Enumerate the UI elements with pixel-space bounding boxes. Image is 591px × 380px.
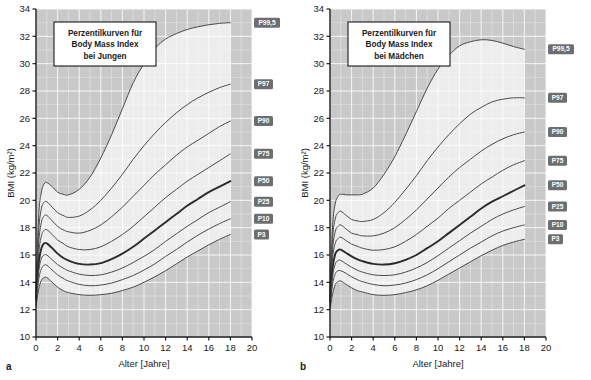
y-tick-label: 34 — [313, 3, 324, 14]
y-tick-label: 24 — [19, 140, 30, 151]
x-tick-label: 4 — [371, 342, 376, 353]
y-tick-label: 12 — [313, 304, 324, 315]
svg-text:P99,5: P99,5 — [258, 19, 276, 27]
y-tick-label: 18 — [19, 222, 30, 233]
svg-text:P10: P10 — [552, 221, 564, 228]
svg-text:P25: P25 — [552, 203, 564, 210]
y-tick-label: 16 — [19, 249, 30, 260]
chart-panel-boys: 1012141618202224262830323402468101214161… — [0, 0, 297, 380]
svg-text:P97: P97 — [552, 94, 564, 101]
svg-text:P75: P75 — [258, 150, 270, 157]
percentile-label-P3: P3 — [254, 230, 269, 240]
y-tick-label: 30 — [19, 58, 30, 69]
y-tick-label: 14 — [313, 277, 324, 288]
svg-text:P3: P3 — [257, 231, 265, 238]
chart-title-line: bei Jungen — [83, 52, 126, 61]
y-tick-label: 16 — [313, 249, 324, 260]
x-tick-label: 8 — [120, 342, 125, 353]
x-tick-label: 2 — [55, 342, 60, 353]
x-tick-label: 18 — [225, 342, 236, 353]
x-tick-label: 10 — [433, 342, 444, 353]
y-tick-label: 12 — [19, 304, 30, 315]
chart-title-line: Perzentilkurven für — [68, 29, 143, 38]
x-tick-label: 20 — [541, 342, 552, 353]
percentile-label-P97: P97 — [548, 93, 567, 103]
x-tick-label: 4 — [77, 342, 82, 353]
panel-letter-b: b — [300, 361, 306, 372]
percentile-label-P25: P25 — [548, 201, 567, 211]
y-tick-label: 30 — [313, 58, 324, 69]
percentile-label-P75: P75 — [254, 149, 273, 159]
y-tick-label: 24 — [313, 140, 324, 151]
x-tick-label: 12 — [454, 342, 465, 353]
x-tick-label: 0 — [327, 342, 332, 353]
y-tick-label: 20 — [19, 195, 30, 206]
svg-text:P3: P3 — [551, 235, 559, 242]
chart-title-box: Perzentilkurven fürBody Mass Indexbei Ju… — [54, 22, 156, 66]
percentile-label-P50: P50 — [548, 180, 567, 190]
percentile-label-P90: P90 — [548, 127, 567, 137]
y-tick-label: 28 — [313, 85, 324, 96]
x-tick-label: 16 — [498, 342, 509, 353]
x-tick-label: 6 — [98, 342, 103, 353]
x-axis-title: Alter [Jahre] — [118, 358, 169, 369]
percentile-label-P75: P75 — [548, 156, 567, 166]
x-tick-label: 14 — [182, 342, 193, 353]
y-axis-title: BMI (kg/m²) — [5, 148, 16, 198]
chart-svg-girls: 1012141618202224262830323402468101214161… — [297, 0, 591, 380]
x-tick-label: 18 — [519, 342, 530, 353]
percentile-label-P10: P10 — [254, 214, 273, 224]
chart-title-line: Body Mass Index — [366, 40, 433, 49]
x-tick-label: 0 — [33, 342, 38, 353]
percentile-label-P995: P99,5 — [548, 44, 574, 54]
y-tick-label: 34 — [19, 3, 30, 14]
svg-text:P99,5: P99,5 — [552, 45, 570, 53]
x-tick-label: 14 — [476, 342, 487, 353]
svg-text:P50: P50 — [258, 177, 270, 184]
x-tick-label: 12 — [160, 342, 171, 353]
svg-text:P75: P75 — [552, 157, 564, 164]
percentile-label-P10: P10 — [548, 220, 567, 230]
x-tick-label: 6 — [392, 342, 397, 353]
y-tick-label: 22 — [19, 167, 30, 178]
y-tick-label: 26 — [19, 113, 30, 124]
y-axis-title: BMI (kg/m²) — [299, 148, 310, 198]
y-tick-label: 18 — [313, 222, 324, 233]
chart-title-line: Perzentilkurven für — [362, 29, 437, 38]
figure-root: 1012141618202224262830323402468101214161… — [0, 0, 591, 380]
y-tick-label: 28 — [19, 85, 30, 96]
chart-title-line: bei Mädchen — [374, 52, 424, 61]
y-tick-label: 22 — [313, 167, 324, 178]
percentile-label-P995: P99,5 — [254, 18, 280, 28]
x-tick-label: 16 — [204, 342, 215, 353]
percentile-label-P25: P25 — [254, 197, 273, 207]
panel-letter-a: a — [6, 361, 12, 372]
svg-text:P50: P50 — [552, 181, 564, 188]
percentile-label-P97: P97 — [254, 79, 273, 89]
y-tick-label: 26 — [313, 113, 324, 124]
svg-text:P25: P25 — [258, 198, 270, 205]
svg-text:P10: P10 — [258, 215, 270, 222]
x-tick-label: 10 — [139, 342, 150, 353]
chart-title-line: Body Mass Index — [72, 40, 139, 49]
y-tick-label: 32 — [19, 31, 30, 42]
y-tick-label: 32 — [313, 31, 324, 42]
y-tick-label: 10 — [313, 331, 324, 342]
x-tick-label: 2 — [349, 342, 354, 353]
percentile-label-P50: P50 — [254, 176, 273, 186]
y-tick-label: 10 — [19, 331, 30, 342]
chart-svg-boys: 1012141618202224262830323402468101214161… — [0, 0, 297, 380]
y-tick-label: 20 — [313, 195, 324, 206]
svg-text:P97: P97 — [258, 80, 270, 87]
chart-title-box: Perzentilkurven fürBody Mass Indexbei Mä… — [348, 22, 450, 66]
chart-panel-girls: 1012141618202224262830323402468101214161… — [297, 0, 591, 380]
percentile-label-P90: P90 — [254, 116, 273, 126]
x-axis-title: Alter [Jahre] — [412, 358, 463, 369]
svg-text:P90: P90 — [258, 117, 270, 124]
x-tick-label: 8 — [414, 342, 419, 353]
y-tick-label: 14 — [19, 277, 30, 288]
svg-text:P90: P90 — [552, 128, 564, 135]
x-tick-label: 20 — [247, 342, 258, 353]
percentile-label-P3: P3 — [548, 234, 563, 244]
